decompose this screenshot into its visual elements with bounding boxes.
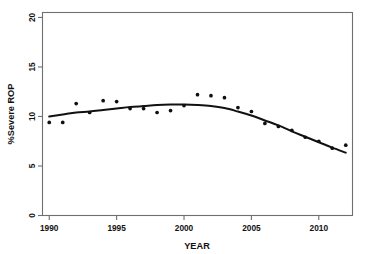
data-point (250, 110, 254, 114)
x-axis-title: YEAR (184, 241, 210, 251)
data-point (317, 139, 321, 143)
x-tick-label: 2005 (242, 223, 261, 233)
data-point (182, 104, 186, 108)
y-axis-title: %Severe ROP (6, 84, 16, 145)
data-point (236, 106, 240, 110)
scatter-plot: 19901995200020052010 05101520 YEAR %Seve… (0, 0, 366, 254)
chart-figure: 19901995200020052010 05101520 YEAR %Seve… (0, 0, 366, 254)
x-tick-label: 2010 (310, 223, 329, 233)
y-tick-label: 0 (27, 213, 37, 218)
x-tick-label: 2000 (175, 223, 194, 233)
data-point (74, 102, 78, 106)
data-point (47, 121, 51, 125)
data-point (330, 146, 334, 150)
data-point (88, 111, 92, 115)
data-point (155, 111, 159, 115)
data-point (115, 100, 119, 104)
data-point (101, 99, 105, 103)
data-point (142, 107, 146, 111)
y-tick-label: 20 (27, 12, 37, 22)
y-tick-label: 5 (27, 163, 37, 168)
data-point (128, 107, 132, 111)
x-tick-label: 1990 (40, 223, 59, 233)
data-point (209, 94, 213, 98)
data-point (263, 122, 267, 126)
data-point (169, 109, 173, 113)
data-point (223, 96, 227, 100)
data-point (344, 143, 348, 147)
data-point (196, 93, 200, 97)
data-point (303, 135, 307, 139)
data-point (290, 128, 294, 132)
x-tick-label: 1995 (107, 223, 126, 233)
y-tick-label: 15 (27, 62, 37, 72)
data-point (61, 121, 65, 125)
data-point (277, 125, 281, 129)
y-tick-label: 10 (27, 111, 37, 121)
